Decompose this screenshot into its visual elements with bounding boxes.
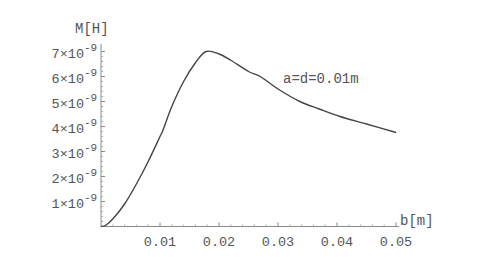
y-tick-exponent: -9 bbox=[84, 92, 97, 104]
y-tick-label: 5×10 bbox=[52, 97, 84, 112]
curve-annotation: a=d=0.01m bbox=[283, 71, 359, 87]
y-axis-label: M[H] bbox=[75, 21, 109, 37]
y-tick-label: 2×10 bbox=[52, 172, 84, 187]
x-tick-label: 0.04 bbox=[321, 235, 353, 250]
y-ticks: 1×10-92×10-93×10-94×10-95×10-96×10-97×10… bbox=[52, 42, 105, 222]
y-tick-exponent: -9 bbox=[84, 42, 97, 54]
chart: M[H] 1×10-92×10-93×10-94×10-95×10-96×10-… bbox=[0, 0, 483, 257]
x-axis-label: b[m] bbox=[400, 213, 434, 229]
y-tick-label: 3×10 bbox=[52, 147, 84, 162]
x-tick-label: 0.03 bbox=[262, 235, 294, 250]
y-tick-label: 7×10 bbox=[52, 47, 84, 62]
y-tick-label: 1×10 bbox=[52, 197, 84, 212]
y-tick-exponent: -9 bbox=[84, 117, 97, 129]
y-tick-exponent: -9 bbox=[84, 167, 97, 179]
y-tick-exponent: -9 bbox=[84, 142, 97, 154]
y-tick-exponent: -9 bbox=[84, 192, 97, 204]
x-tick-label: 0.01 bbox=[144, 235, 176, 250]
y-tick-label: 6×10 bbox=[52, 72, 84, 87]
y-tick-label: 4×10 bbox=[52, 122, 84, 137]
y-tick-exponent: -9 bbox=[84, 67, 97, 79]
x-tick-label: 0.05 bbox=[380, 235, 412, 250]
x-tick-label: 0.02 bbox=[203, 235, 235, 250]
